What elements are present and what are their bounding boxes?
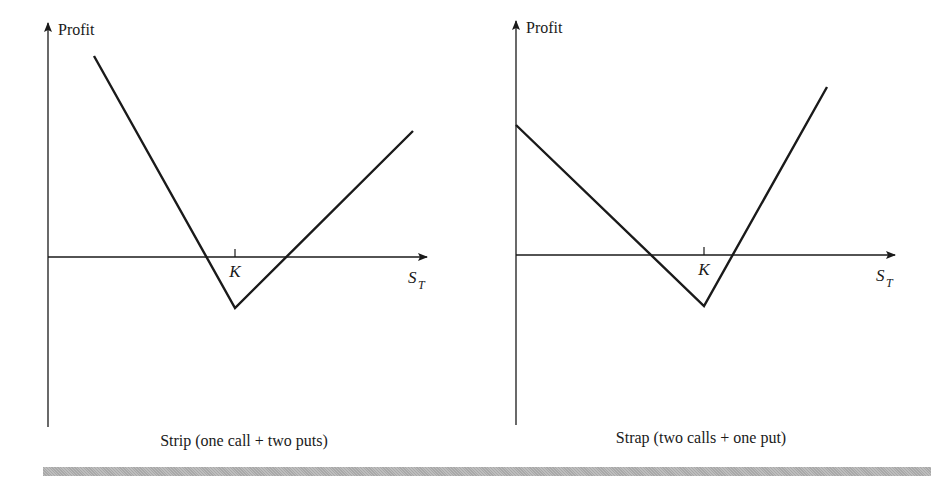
x-axis-label-subscript: T	[886, 276, 894, 290]
k-label: K	[697, 260, 711, 279]
strap-profit-line	[516, 87, 827, 306]
x-axis-label: S	[408, 268, 417, 287]
y-axis-label: Profit	[526, 19, 563, 36]
x-axis-label-subscript: T	[418, 278, 426, 292]
strap-caption: Strap (two calls + one put)	[616, 429, 786, 447]
strap-chart: Profit K S T Strap (two calls + one put)	[516, 19, 895, 447]
x-axis-label: S	[876, 266, 885, 285]
strip-chart: Profit K S T Strip (one call + two puts)	[48, 21, 427, 450]
strip-caption: Strip (one call + two puts)	[160, 432, 328, 450]
k-label: K	[228, 262, 242, 281]
strip-profit-line	[94, 56, 413, 308]
bottom-rule	[43, 467, 931, 476]
figure: Profit K S T Strip (one call + two puts)…	[0, 0, 931, 479]
y-axis-label: Profit	[58, 21, 95, 38]
